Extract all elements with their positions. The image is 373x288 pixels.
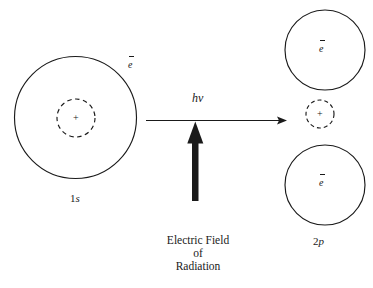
photon-label-nu: ν	[198, 91, 203, 105]
right-lower-electron-symbol: e	[319, 177, 323, 188]
right-nucleus-plus-sign: +	[317, 109, 323, 119]
right-upper-electron-label: e	[319, 44, 323, 54]
photon-energy-label: hν	[192, 92, 203, 104]
right-2p-upper-lobe-circle	[285, 10, 365, 90]
right-orbital-label-letter: p	[319, 235, 325, 247]
right-orbital-label: 2p	[313, 236, 324, 247]
right-2p-lower-lobe-circle	[285, 145, 365, 225]
caption-line-2: of	[138, 247, 258, 260]
caption-line-3: Radiation	[138, 260, 258, 273]
photon-transition-arrow	[146, 117, 287, 125]
caption-line-1: Electric Field	[138, 234, 258, 247]
electric-field-arrow	[187, 122, 203, 202]
right-lower-electron-label: e	[319, 178, 323, 188]
left-orbital-label-letter: s	[76, 192, 80, 204]
left-electron-symbol: e	[128, 59, 132, 70]
left-orbital-label: 1s	[70, 193, 80, 204]
left-nucleus-plus-sign: +	[73, 113, 79, 123]
electric-field-caption: Electric Field of Radiation	[138, 234, 258, 273]
right-upper-electron-symbol: e	[319, 43, 323, 54]
left-electron-label: e	[128, 60, 132, 70]
